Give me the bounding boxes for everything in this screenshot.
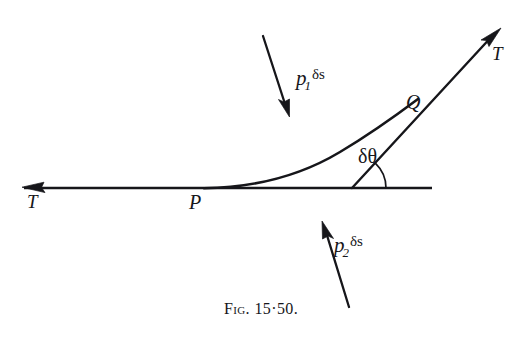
force-p1-arrowhead <box>279 99 290 117</box>
mechanics-diagram <box>0 0 522 347</box>
caption-number: 15·50. <box>254 300 298 317</box>
point-label-q: Q <box>406 92 420 112</box>
force-label-p2: p2δs <box>334 234 363 259</box>
point-label-p: P <box>189 192 201 212</box>
force-p1-element: δs <box>312 66 325 82</box>
force-p2-subscript: 2 <box>343 245 350 260</box>
angle-label-delta-theta: δθ <box>358 146 377 166</box>
force-p2-arrowhead <box>322 221 334 239</box>
force-p1-shaft <box>263 36 286 107</box>
figure-caption: Fig. 15·50. <box>0 300 522 318</box>
angle-arc <box>376 163 387 188</box>
force-label-p1: p1δs <box>296 67 325 92</box>
force-p1-subscript: 1 <box>305 78 312 93</box>
figure-container: T T P Q δθ p1δs p2δs Fig. 15·50. <box>0 0 522 347</box>
force-p2-element: δs <box>350 233 363 249</box>
tension-label-left: T <box>27 192 38 211</box>
tension-label-right: T <box>492 44 503 63</box>
string-curve <box>204 99 418 188</box>
force-p1-arrow <box>263 36 290 117</box>
caption-prefix: Fig. <box>224 300 250 317</box>
